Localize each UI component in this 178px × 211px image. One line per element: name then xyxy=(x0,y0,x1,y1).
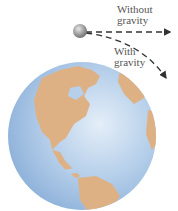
projectile-ball xyxy=(73,24,87,38)
label-with-gravity: With gravity xyxy=(114,46,145,68)
earth-globe xyxy=(8,62,160,211)
gravity-diagram xyxy=(0,0,178,211)
label-without-gravity: Without gravity xyxy=(117,4,153,26)
